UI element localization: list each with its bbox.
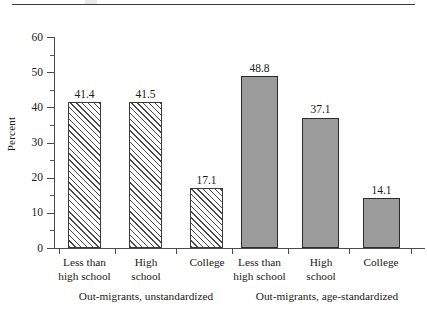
page-artifact xyxy=(85,0,97,4)
x-tick xyxy=(232,248,233,254)
bar-age-standardized-less-than-high-school[interactable] xyxy=(241,76,278,248)
x-category-label-less-than-high-school: Less than high school xyxy=(228,256,291,283)
x-axis-line xyxy=(54,248,425,249)
bar-value-label: 37.1 xyxy=(289,103,352,115)
x-tick xyxy=(59,248,60,254)
y-tick-label-30: 30 xyxy=(3,137,43,149)
cat-line-2: school xyxy=(117,270,175,284)
cat-line-2: high school xyxy=(53,270,116,284)
cat-line-2: school xyxy=(292,270,350,284)
group-label-unstandardized: Out-migrants, unstandardized xyxy=(56,290,236,303)
x-category-label-high-school: High school xyxy=(117,256,175,283)
bar-value-label: 14.1 xyxy=(350,184,413,196)
y-tick-label-20: 20 xyxy=(3,172,43,184)
y-tick-label-0: 0 xyxy=(3,243,43,255)
bar-unstandardized-less-than-high-school[interactable] xyxy=(68,102,101,248)
x-tick xyxy=(176,248,177,254)
y-tick-major-20 xyxy=(47,178,54,179)
y-tick-label-50: 50 xyxy=(3,67,43,79)
y-tick-minor-55 xyxy=(50,55,54,56)
header-rule xyxy=(12,4,415,5)
bar-chart-figure: Percent 0 10 20 30 40 50 60 41.4 41.5 17… xyxy=(0,0,427,314)
cat-line-1: College xyxy=(350,256,412,270)
y-tick-major-10 xyxy=(47,213,54,214)
y-tick-minor-15 xyxy=(50,195,54,196)
bar-unstandardized-college[interactable] xyxy=(190,188,223,248)
bar-value-label: 41.5 xyxy=(114,88,177,100)
y-tick-label-10: 10 xyxy=(3,207,43,219)
y-tick-major-40 xyxy=(47,107,54,108)
cat-line-1: Less than xyxy=(228,256,291,270)
y-axis-line xyxy=(54,37,55,248)
y-tick-minor-5 xyxy=(50,230,54,231)
cat-line-1: Less than xyxy=(53,256,116,270)
group-label-age-standardized: Out-migrants, age-standardized xyxy=(232,290,422,303)
bar-age-standardized-high-school[interactable] xyxy=(302,118,339,249)
y-tick-label-40: 40 xyxy=(3,102,43,114)
bar-unstandardized-high-school[interactable] xyxy=(129,102,162,248)
x-category-label-less-than-high-school: Less than high school xyxy=(53,256,116,283)
y-tick-major-30 xyxy=(47,143,54,144)
x-category-label-high-school: High school xyxy=(292,256,350,283)
bar-age-standardized-college[interactable] xyxy=(363,198,400,248)
cat-line-1: High xyxy=(117,256,175,270)
cat-line-1: High xyxy=(292,256,350,270)
y-tick-major-0 xyxy=(47,248,54,249)
x-tick xyxy=(288,248,289,254)
y-tick-minor-25 xyxy=(50,160,54,161)
y-tick-minor-35 xyxy=(50,125,54,126)
y-tick-major-50 xyxy=(47,72,54,73)
x-tick xyxy=(349,248,350,254)
bar-value-label: 48.8 xyxy=(228,62,291,74)
x-category-label-college: College xyxy=(350,256,412,270)
cat-line-2: high school xyxy=(228,270,291,284)
bar-value-label: 41.4 xyxy=(53,88,116,100)
y-tick-major-60 xyxy=(47,37,54,38)
x-tick xyxy=(115,248,116,254)
y-tick-label-60: 60 xyxy=(3,32,43,44)
x-tick xyxy=(411,248,412,254)
bar-value-label: 17.1 xyxy=(175,174,238,186)
